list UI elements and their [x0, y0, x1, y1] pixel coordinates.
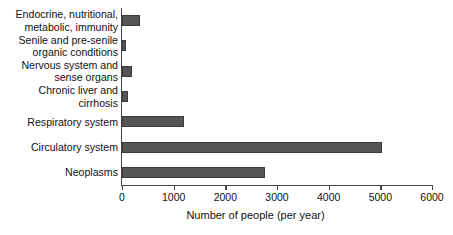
x-tick-label: 2000	[214, 191, 237, 203]
x-tick	[432, 186, 433, 190]
category-label: Endocrine, nutritional, metabolic, immun…	[0, 8, 121, 32]
category-label: Circulatory system	[0, 141, 121, 153]
bar	[122, 167, 265, 178]
x-tick	[225, 186, 226, 190]
category-label: Neoplasms	[0, 166, 121, 178]
x-axis-title-label: Number of people (per year)	[186, 209, 324, 221]
x-tick	[277, 186, 278, 190]
x-tick-label: 0	[119, 191, 125, 203]
bar	[122, 91, 128, 102]
bar	[122, 116, 184, 127]
category-label: Chronic liver and cirrhosis	[0, 84, 121, 108]
x-tick-label: 3000	[265, 191, 288, 203]
x-tick	[380, 186, 381, 190]
category-label: Senile and pre-senile organic conditions	[0, 34, 121, 58]
x-axis-title: Number of people (per year)	[0, 209, 453, 221]
bar	[122, 66, 132, 77]
x-tick-label: 1000	[162, 191, 185, 203]
x-tick-label: 4000	[317, 191, 340, 203]
x-tick	[174, 186, 175, 190]
bar	[122, 40, 126, 51]
bar	[122, 15, 140, 26]
bar	[122, 142, 382, 153]
x-tick-label: 5000	[369, 191, 392, 203]
x-tick	[122, 186, 123, 190]
category-label: Nervous system and sense organs	[0, 59, 121, 83]
category-label: Respiratory system	[0, 116, 121, 128]
x-tick-label: 6000	[420, 191, 443, 203]
x-tick	[329, 186, 330, 190]
bar-chart: Endocrine, nutritional, metabolic, immun…	[0, 0, 453, 235]
